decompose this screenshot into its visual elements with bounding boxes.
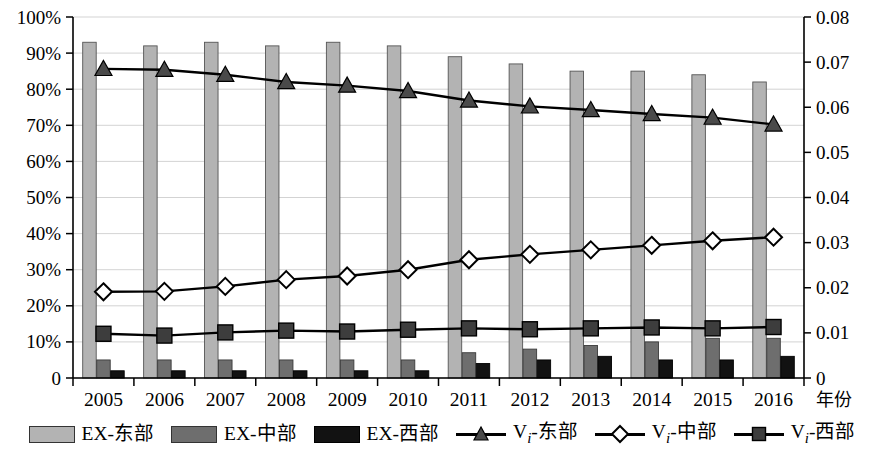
line-series-group [95,60,782,343]
y-left-tick-label: 90% [26,43,61,64]
legend-item-4[interactable]: Vi-中部 [595,422,717,446]
marker-diamond [582,241,599,258]
bar-EX-中部-2010 [401,360,415,378]
y-right-tick-label: 0.05 [816,142,849,163]
bar-EX-西部-2011 [476,364,490,378]
marker-square [522,322,537,337]
marker-diamond [521,246,538,263]
bar-EX-东部-2006 [144,46,158,378]
marker-diamond [278,271,295,288]
marker-square [157,328,172,343]
bar-EX-中部-2012 [523,349,537,378]
y-left-tick-label: 30% [26,259,61,280]
bar-EX-西部-2012 [537,360,551,378]
y-left-tick-label: 80% [26,79,61,100]
marker-diamond [460,251,477,268]
y-left-tick-label: 40% [26,223,61,244]
x-tick-label-2016: 2016 [754,389,793,410]
bar-EX-西部-2006 [172,371,186,378]
bar-EX-中部-2014 [645,342,659,378]
y-left-tick-label: 0 [52,368,62,389]
marker-square [96,326,111,341]
bar-EX-西部-2014 [659,360,673,378]
x-tick-label-2005: 2005 [84,389,123,410]
legend-label-2: EX-西部 [367,424,440,444]
bar-EX-西部-2008 [293,371,307,378]
x-tick-label-2006: 2006 [145,389,184,410]
bar-EX-东部-2012 [509,64,523,378]
x-tick-label-2014: 2014 [632,389,671,410]
legend-item-0[interactable]: EX-东部 [29,424,155,444]
bar-EX-东部-2014 [631,71,645,378]
x-tick-label-2013: 2013 [571,389,610,410]
legend-swatch-east [29,426,75,443]
bar-EX-中部-2008 [279,360,293,378]
bar-EX-西部-2015 [720,360,734,378]
x-tick-label-2012: 2012 [510,389,549,410]
square-icon [752,427,765,440]
legend-swatch-west [314,426,360,443]
chart-legend: EX-东部EX-中部EX-西部Vi-东部Vi-中部Vi-西部 [0,412,884,456]
marker-square [766,320,781,335]
y-axis-right-labels: 00.010.020.030.040.050.060.070.08 [816,7,850,389]
bar-EX-西部-2013 [598,356,612,378]
bar-EX-西部-2010 [415,371,429,378]
legend-label-5: Vi-西部 [791,422,856,446]
marker-diamond [217,278,234,295]
bar-EX-中部-2015 [706,338,720,378]
y-right-tick-label: 0.08 [816,7,849,28]
line-Vi-西部 [103,327,773,336]
legend-item-5[interactable]: Vi-西部 [734,422,856,446]
marker-square [401,322,416,337]
marker-diamond [156,283,173,300]
bar-EX-中部-2007 [219,360,233,378]
y-right-tick-label: 0.01 [816,322,849,343]
bar-EX-东部-2007 [205,42,219,378]
x-tick-label-2015: 2015 [693,389,732,410]
chart-canvas: 010%20%30%40%50%60%70%80%90%100% 00.010.… [0,0,884,410]
bar-EX-东部-2008 [265,46,279,378]
x-axis-title: 年份 [816,390,852,410]
marker-diamond [400,261,417,278]
legend-item-1[interactable]: EX-中部 [171,424,297,444]
line-Vi-中部 [103,237,773,292]
x-tick-label-2011: 2011 [450,389,488,410]
bar-EX-中部-2011 [462,353,476,378]
bar-EX-西部-2005 [111,371,125,378]
y-left-tick-label: 70% [26,115,61,136]
triangle-icon [474,427,488,440]
marker-square [705,321,720,336]
legend-label-3: Vi-东部 [513,422,578,446]
marker-square [340,324,355,339]
y-left-tick-label: 10% [26,331,61,352]
marker-diamond [643,237,660,254]
bar-EX-中部-2016 [767,338,781,378]
x-tick-label-2009: 2009 [328,389,367,410]
legend-label-0: EX-东部 [82,424,155,444]
marker-square [461,321,476,336]
bar-EX-西部-2007 [233,371,247,378]
y-axis-left-labels: 010%20%30%40%50%60%70%80%90%100% [17,7,62,389]
legend-line-diamond [595,425,645,443]
marker-square [279,323,294,338]
y-right-tick-label: 0.03 [816,232,849,253]
marker-diamond [765,229,782,246]
legend-item-2[interactable]: EX-西部 [314,424,440,444]
legend-swatch-middle [171,426,217,443]
bar-EX-东部-2016 [753,82,767,378]
bar-EX-中部-2005 [97,360,111,378]
legend-item-3[interactable]: Vi-东部 [456,422,578,446]
y-left-tick-label: 100% [17,7,62,28]
y-left-tick-label: 50% [26,187,61,208]
x-axis-labels: 2005200620072008200920102011201220132014… [84,389,793,410]
bar-EX-东部-2015 [692,75,706,378]
y-right-tick-label: 0.06 [816,97,849,118]
x-tick-label-2010: 2010 [389,389,428,410]
chart-page: 010%20%30%40%50%60%70%80%90%100% 00.010.… [0,0,884,456]
y-right-tick-label: 0 [816,368,826,389]
combo-chart: 010%20%30%40%50%60%70%80%90%100% 00.010.… [0,0,884,410]
line-Vi-东部 [103,69,773,125]
marker-square [218,325,233,340]
y-left-tick-label: 60% [26,151,61,172]
y-right-tick-label: 0.02 [816,277,849,298]
